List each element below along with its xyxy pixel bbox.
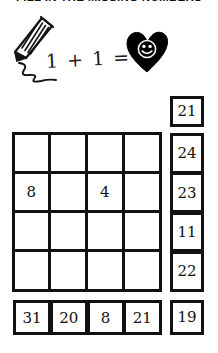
grid-cell-r3c3[interactable] — [85, 210, 125, 252]
grid-cell-r3c4[interactable] — [122, 210, 162, 252]
grid-cell-r2c3[interactable]: 4 — [85, 171, 125, 213]
equation-row: 1 + 1 = — [46, 50, 166, 84]
grid-cell-r1c1[interactable] — [12, 132, 52, 174]
grid-cell-r4c1[interactable] — [12, 249, 52, 291]
grid-cell-r4c2[interactable] — [48, 249, 88, 291]
answer-stack-item-4[interactable]: 22 — [170, 251, 204, 292]
bottom-row-item-3[interactable]: 8 — [87, 300, 125, 335]
grid-cell-r4c4[interactable] — [122, 249, 162, 291]
grid-cell-r2c4[interactable] — [122, 171, 162, 213]
answer-box-bottom[interactable]: 19 — [170, 300, 204, 335]
answer-stack: 24 23 11 22 — [170, 133, 204, 290]
heart-smiley-icon — [124, 28, 170, 74]
grid-cell-r3c1[interactable] — [12, 210, 52, 252]
answer-stack-item-3[interactable]: 11 — [170, 212, 204, 253]
answer-stack-item-2[interactable]: 23 — [170, 172, 204, 213]
bottom-row-item-2[interactable]: 20 — [50, 300, 88, 335]
answer-stack-item-1[interactable]: 24 — [170, 133, 204, 174]
grid-cell-r2c1[interactable]: 8 — [12, 171, 52, 213]
bottom-answer-row: 31 20 8 21 — [13, 300, 160, 335]
grid-cell-r4c3[interactable] — [85, 249, 125, 291]
number-grid: 8 4 — [13, 133, 160, 290]
grid-cell-r2c2[interactable] — [48, 171, 88, 213]
grid-cell-r1c2[interactable] — [48, 132, 88, 174]
grid-cell-r1c3[interactable] — [85, 132, 125, 174]
page-title: FILL IN THE MISSING NUMBERS — [0, 0, 218, 3]
bottom-row-item-1[interactable]: 31 — [13, 300, 51, 335]
bottom-row-item-4[interactable]: 21 — [123, 300, 161, 335]
answer-box-top[interactable]: 21 — [170, 96, 204, 127]
grid-cell-r1c4[interactable] — [122, 132, 162, 174]
grid-cell-r3c2[interactable] — [48, 210, 88, 252]
equation-text: 1 + 1 = — [45, 46, 131, 72]
